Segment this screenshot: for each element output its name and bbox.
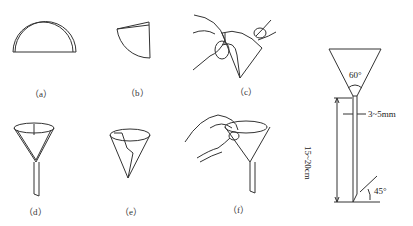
panel-a-semicircle — [13, 22, 76, 52]
tip-angle-label: 45° — [374, 186, 387, 196]
panel-b-quarter — [117, 22, 150, 58]
stem-diameter-label: 3~5mm — [368, 109, 396, 119]
panel-label-f: （f） — [228, 203, 249, 216]
panel-c-cone-hands — [193, 15, 276, 78]
panel-label-d: （d） — [24, 205, 47, 218]
panel-label-e: （e） — [120, 205, 142, 218]
panel-label-a: （a） — [30, 87, 52, 100]
angle-top-label: 60° — [349, 70, 362, 80]
panel-label-c: （c） — [235, 85, 257, 98]
panel-e-cone — [110, 129, 150, 178]
stem-length-label: 15~20cm — [303, 146, 313, 180]
panel-label-b: （b） — [126, 86, 149, 99]
panel-f-wetting — [185, 115, 270, 193]
panel-d-funnel — [14, 123, 54, 196]
diagram-canvas — [0, 0, 413, 226]
